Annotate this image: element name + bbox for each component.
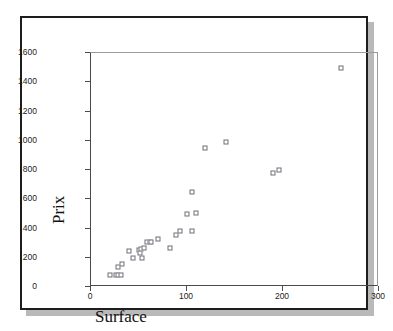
- scatter-data-layer: [91, 53, 379, 287]
- data-point: [271, 170, 276, 175]
- data-point: [156, 237, 161, 242]
- data-point: [137, 251, 142, 256]
- data-point: [115, 273, 120, 278]
- data-point: [118, 273, 123, 278]
- data-point: [137, 248, 142, 253]
- data-point: [149, 240, 154, 245]
- y-tick-mark: [85, 228, 90, 229]
- y-tick-mark: [85, 257, 90, 258]
- y-tick-label: 600: [23, 193, 37, 203]
- y-tick-label: 1600: [18, 47, 37, 57]
- data-point: [131, 255, 136, 260]
- x-tick-label: 200: [275, 291, 289, 301]
- data-point: [185, 211, 190, 216]
- y-axis-title: Prix: [49, 196, 69, 224]
- y-tick-mark: [85, 169, 90, 170]
- figure-frame: 02004006008001000120014001600 0100200300…: [20, 16, 368, 310]
- data-point: [203, 146, 208, 151]
- y-tick-label: 400: [23, 223, 37, 233]
- y-tick-label: 1400: [18, 76, 37, 86]
- data-point: [189, 229, 194, 234]
- data-point: [277, 168, 282, 173]
- y-tick-mark: [85, 52, 90, 53]
- data-point: [141, 246, 146, 251]
- y-tick-mark: [85, 111, 90, 112]
- data-point: [147, 239, 152, 244]
- data-point: [193, 211, 198, 216]
- data-point: [115, 265, 120, 270]
- data-point: [224, 140, 229, 145]
- data-point: [178, 229, 183, 234]
- data-point: [127, 249, 132, 254]
- data-point: [338, 65, 343, 70]
- y-tick-label: 0: [32, 281, 37, 291]
- y-tick-mark: [85, 140, 90, 141]
- figure-root: 02004006008001000120014001600 0100200300…: [0, 0, 393, 331]
- x-axis-title: Surface: [95, 307, 147, 327]
- data-point: [119, 262, 124, 267]
- plot-area: [90, 52, 378, 286]
- data-point: [174, 233, 179, 238]
- y-tick-mark: [85, 198, 90, 199]
- y-tick-label: 200: [23, 252, 37, 262]
- data-point: [167, 245, 172, 250]
- y-tick-label: 1200: [18, 106, 37, 116]
- data-point: [108, 273, 113, 278]
- y-tick-label: 1000: [18, 135, 37, 145]
- x-tick-label: 100: [179, 291, 193, 301]
- data-point: [139, 255, 144, 260]
- data-point: [138, 246, 143, 251]
- data-point: [189, 189, 194, 194]
- y-tick-mark: [85, 81, 90, 82]
- x-tick-label: 0: [88, 291, 93, 301]
- y-tick-label: 800: [23, 164, 37, 174]
- data-point: [113, 272, 118, 277]
- x-tick-label: 300: [371, 291, 385, 301]
- data-point: [144, 240, 149, 245]
